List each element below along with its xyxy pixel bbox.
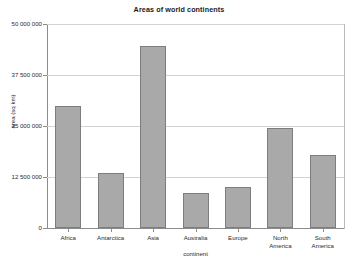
y-tick-label: 37 500 000 (12, 72, 43, 78)
x-axis-title: continent (47, 250, 344, 257)
x-tick-label: Australia (174, 234, 216, 242)
x-tick-mark (280, 228, 281, 232)
bar (98, 173, 124, 228)
x-tick-mark (68, 228, 69, 232)
bars-container (47, 24, 344, 228)
x-tick-label: Africa (47, 234, 89, 242)
y-tick-label: 12 500 000 (12, 174, 43, 180)
bar (55, 106, 81, 228)
x-tick-mark (111, 228, 112, 232)
y-tick-label: 25 000 000 (12, 123, 43, 129)
bar (140, 46, 166, 228)
chart-title: Areas of world continents (0, 5, 358, 14)
x-tick-label: Europe (217, 234, 259, 242)
y-axis-title: area (sq km) (9, 82, 16, 142)
bar (267, 128, 293, 228)
x-tick-label: Asia (132, 234, 174, 242)
x-tick-mark (238, 228, 239, 232)
bar (310, 155, 336, 228)
x-tick-label: South America (302, 234, 344, 249)
x-tick-label: Antarctica (89, 234, 131, 242)
y-tick-label: 0 (39, 225, 42, 231)
x-tick-mark (323, 228, 324, 232)
x-tick-mark (196, 228, 197, 232)
x-tick-label: North America (259, 234, 301, 249)
bar (225, 187, 251, 228)
x-tick-mark (153, 228, 154, 232)
bar-chart: Areas of world continents 012 500 00025 … (0, 0, 358, 267)
y-tick-label: 50 000 000 (12, 21, 43, 27)
y-tick-mark (43, 228, 47, 229)
bar (183, 193, 209, 228)
